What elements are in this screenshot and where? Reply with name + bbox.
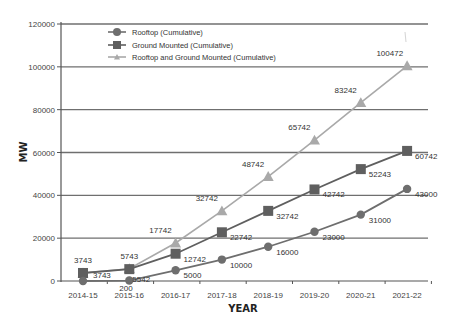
data-label: 17742 <box>149 226 172 235</box>
x-tick-label: 2017-18 <box>207 291 237 300</box>
triangle-marker <box>170 238 181 248</box>
chart-canvas: 020000400006000080000100000120000 2014-1… <box>0 0 451 329</box>
y-axis-title: MW <box>18 142 29 163</box>
y-tick-label: 100000 <box>28 63 55 72</box>
x-tick-label: 2020-21 <box>346 291 376 300</box>
triangle-marker <box>216 205 227 215</box>
square-marker <box>263 206 273 216</box>
data-label: 60742 <box>415 152 438 161</box>
square-marker <box>356 164 366 174</box>
circle-marker <box>264 243 272 251</box>
data-label: 31000 <box>369 216 392 225</box>
triangle-marker <box>402 60 413 70</box>
legend-label: Rooftop (Cumulative) <box>132 28 203 37</box>
circle-marker <box>79 277 87 285</box>
square-marker <box>402 146 412 156</box>
legend-item: Rooftop and Ground Mounted (Cumulative) <box>108 53 276 62</box>
square-marker <box>217 227 227 237</box>
data-label: 52243 <box>369 170 392 179</box>
x-tick-label: 2016-17 <box>161 291 191 300</box>
data-label: 48742 <box>242 160 265 169</box>
data-label: 22742 <box>230 233 253 242</box>
circle-marker <box>310 228 318 236</box>
data-label: 32742 <box>276 212 299 221</box>
data-label: 100472 <box>376 49 403 58</box>
circle-marker <box>403 185 411 193</box>
data-label: 16000 <box>276 248 299 257</box>
y-tick-label: 60000 <box>33 149 56 158</box>
square-marker <box>78 268 88 278</box>
x-tick-label: 2019-20 <box>300 291 330 300</box>
data-label: 3743 <box>74 256 92 265</box>
y-tick-label: 40000 <box>33 191 56 200</box>
data-label: 200 <box>119 284 133 293</box>
y-tick-label: 0 <box>51 277 56 286</box>
data-label: 83242 <box>335 86 358 95</box>
y-tick-label: 80000 <box>33 106 56 115</box>
legend-item: Rooftop (Cumulative) <box>108 28 203 37</box>
x-tick-label: 2021-22 <box>392 291 422 300</box>
circle-marker <box>113 28 121 36</box>
data-label: 12742 <box>184 255 207 264</box>
y-tick-label: 120000 <box>28 20 55 29</box>
square-marker <box>113 41 121 49</box>
legend: Rooftop (Cumulative)Ground Mounted (Cumu… <box>108 28 276 62</box>
circle-marker <box>357 210 365 218</box>
circle-marker <box>218 255 226 263</box>
x-tick-label: 2014-15 <box>68 291 98 300</box>
data-label: 23000 <box>323 233 346 242</box>
data-label: 5542 <box>132 275 150 284</box>
legend-label: Ground Mounted (Cumulative) <box>132 41 233 50</box>
legend-label: Rooftop and Ground Mounted (Cumulative) <box>132 53 276 62</box>
circle-marker <box>171 266 179 274</box>
data-label: 5743 <box>120 252 138 261</box>
solar-capacity-line-chart: 020000400006000080000100000120000 2014-1… <box>0 0 451 329</box>
data-label: 3743 <box>93 271 111 280</box>
data-label: 43000 <box>415 190 438 199</box>
y-tick-label: 20000 <box>33 234 56 243</box>
data-label: 32742 <box>196 194 219 203</box>
y-axis-ticks: 020000400006000080000100000120000 <box>28 20 61 286</box>
data-label: 5000 <box>184 271 202 280</box>
data-label: 42742 <box>323 190 346 199</box>
artifact-mark <box>405 32 406 42</box>
square-marker <box>310 184 320 194</box>
data-label: 10000 <box>230 261 253 270</box>
data-label: 65742 <box>288 123 311 132</box>
x-tick-label: 2018-19 <box>254 291 284 300</box>
square-marker <box>124 264 134 274</box>
square-marker <box>171 249 181 259</box>
data-labels-layer: 2005000100001600023000310004300037435542… <box>74 32 438 293</box>
legend-item: Ground Mounted (Cumulative) <box>108 41 233 50</box>
x-axis-title: YEAR <box>227 303 258 314</box>
